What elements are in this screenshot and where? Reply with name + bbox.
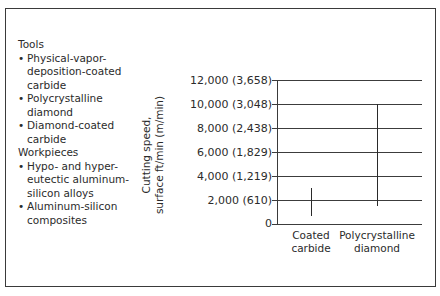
legend-text: diamond: [27, 106, 73, 118]
legend-workpieces-heading: Workpieces: [18, 146, 148, 160]
gridline: [277, 104, 422, 105]
legend-text: silicon alloys: [27, 187, 94, 199]
y-axis-label-line: surface ft/min (m/min): [153, 80, 166, 230]
legend-text: carbide: [27, 79, 66, 91]
legend-text: Aluminum-silicon: [27, 200, 117, 212]
legend-text: eutectic aluminum-: [27, 173, 129, 185]
legend-text: composites: [27, 214, 87, 226]
y-tick-label: 4,000 (1,219): [197, 170, 272, 183]
y-tick-label: 10,000 (3,048): [190, 98, 272, 111]
legend-text: Physical-vapor-: [27, 52, 106, 64]
x-category-label-line: carbide: [291, 242, 330, 255]
legend-text: carbide: [27, 133, 66, 145]
gridline: [277, 80, 422, 81]
gridline: [277, 128, 422, 129]
legend-panel: Tools Physical-vapor- deposition-coated …: [18, 38, 148, 227]
legend-text: Hypo- and hyper-: [27, 160, 118, 172]
x-category-label: Coated carbide: [291, 229, 330, 255]
legend-tool-item: Diamond-coated carbide: [18, 119, 148, 146]
legend-tool-item: Physical-vapor- deposition-coated carbid…: [18, 52, 148, 93]
legend-text: Polycrystalline: [27, 92, 103, 104]
y-tick-label: 12,000 (3,658): [190, 74, 272, 87]
legend-workpiece-item: Aluminum-silicon composites: [18, 200, 148, 227]
legend-workpiece-item: Hypo- and hyper- eutectic aluminum- sili…: [18, 160, 148, 201]
x-category-label-line: Coated: [291, 229, 330, 242]
legend-tool-item: Polycrystalline diamond: [18, 92, 148, 119]
range-bar-polycrystalline-diamond: [377, 104, 378, 206]
y-tick-label: 0: [265, 217, 272, 230]
range-bar-coated-carbide: [311, 188, 312, 216]
gridline: [277, 152, 422, 153]
legend-tools-heading: Tools: [18, 38, 148, 52]
gridline: [277, 176, 422, 177]
y-tick-label: 6,000 (1,829): [197, 146, 272, 159]
x-category-label-line: diamond: [339, 242, 415, 255]
gridline: [277, 200, 422, 201]
x-category-label-line: Polycrystalline: [339, 229, 415, 242]
y-tick-label: 8,000 (2,438): [197, 122, 272, 135]
y-tick-label: 2,000 (610): [207, 194, 272, 207]
x-axis-baseline: [277, 224, 422, 225]
x-category-label: Polycrystalline diamond: [339, 229, 415, 255]
y-axis-line: [277, 80, 278, 225]
y-axis-label: Cutting speed, surface ft/min (m/min): [140, 80, 165, 230]
legend-text: Diamond-coated: [27, 119, 114, 131]
y-axis-label-line: Cutting speed,: [140, 80, 153, 230]
legend-text: deposition-coated: [27, 65, 121, 77]
